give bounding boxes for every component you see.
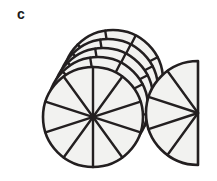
fraction-circles-diagram [0,0,217,181]
front-circle [43,67,143,167]
fraction-circles-figure: c [0,0,217,181]
shapes-layer [43,30,198,167]
panel-label: c [17,7,25,21]
